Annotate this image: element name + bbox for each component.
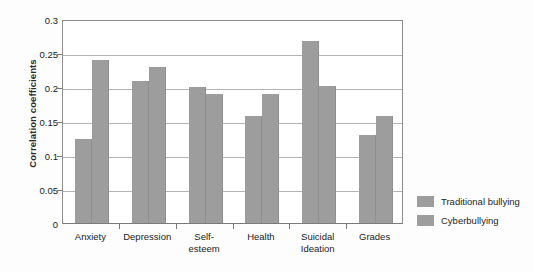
x-axis-category-label: Health (247, 231, 274, 243)
y-axis-tick-label: 0.2 (18, 83, 58, 94)
bar (302, 41, 319, 223)
bar (149, 67, 166, 223)
y-axis-tick-label: 0.3 (18, 15, 58, 26)
gridline (63, 191, 402, 192)
bar (376, 116, 393, 223)
x-axis-category-label: Depression (123, 231, 171, 243)
bar (262, 94, 279, 223)
y-axis-tick-label: 0.05 (18, 185, 58, 196)
legend-label: Cyberbullying (441, 215, 499, 226)
bar (132, 81, 149, 223)
x-axis-tick-mark (289, 224, 290, 229)
x-axis-category-label: Suicidal Ideation (301, 231, 335, 254)
x-axis-category-label: Anxiety (75, 231, 106, 243)
x-axis-tick-mark (119, 224, 120, 229)
legend-item: Cyberbullying (417, 212, 520, 228)
legend-swatch (417, 196, 434, 207)
legend-item: Traditional bullying (417, 193, 520, 209)
gridline (63, 55, 402, 56)
x-axis-tick-mark (176, 224, 177, 229)
y-axis-tick-label: 0.25 (18, 49, 58, 60)
legend-swatch (417, 215, 434, 226)
legend-label: Traditional bullying (441, 196, 520, 207)
bar (206, 94, 223, 223)
x-axis-category-label: Grades (359, 231, 390, 243)
legend: Traditional bullyingCyberbullying (417, 193, 520, 231)
bar (75, 139, 92, 223)
bar (245, 116, 262, 223)
plot-area (62, 20, 403, 224)
y-axis-tick-label: 0 (18, 219, 58, 230)
y-axis-title: Correlation coefficients (27, 14, 38, 214)
bar (189, 87, 206, 223)
bar (359, 135, 376, 223)
bar-chart: Correlation coefficients 00.050.10.150.2… (0, 0, 533, 272)
gridline (63, 89, 402, 90)
y-axis-tick-label: 0.1 (18, 151, 58, 162)
gridline (63, 157, 402, 158)
x-axis-category-label: Self- esteem (189, 231, 220, 254)
bar (319, 86, 336, 223)
x-axis-tick-mark (233, 224, 234, 229)
y-axis-tick-label: 0.15 (18, 117, 58, 128)
bar (92, 60, 109, 223)
gridline (63, 123, 402, 124)
x-axis-tick-mark (346, 224, 347, 229)
